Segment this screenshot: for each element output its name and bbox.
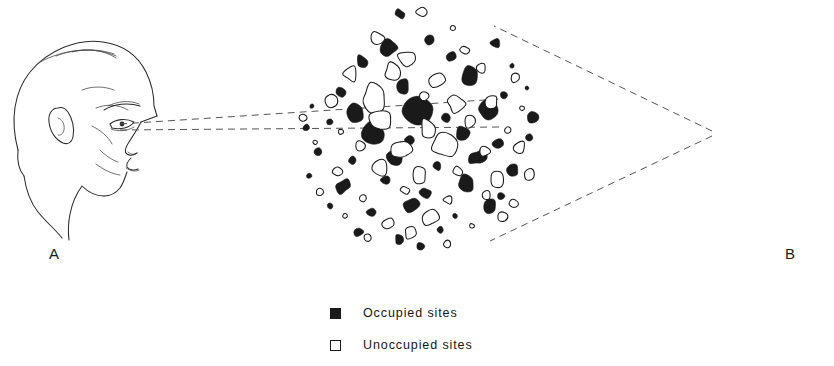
occupied-site (453, 213, 458, 218)
unoccupied-site (416, 7, 428, 16)
occupied-site (347, 103, 364, 123)
unoccupied-site (453, 166, 463, 176)
legend-item-unoccupied: Unoccupied sites (330, 332, 560, 358)
unoccupied-site (509, 199, 518, 207)
occupied-site (525, 86, 529, 90)
occupied-site (425, 35, 435, 45)
unoccupied-site (511, 73, 519, 82)
unoccupied-site (382, 218, 394, 229)
unoccupied-site (419, 92, 429, 101)
occupied-site (510, 63, 514, 68)
occupied-site (357, 55, 368, 68)
occupied-site (336, 87, 346, 97)
unoccupied-site (364, 234, 371, 241)
occupied-site (395, 9, 405, 19)
occupied-site (498, 193, 505, 200)
unoccupied-site (460, 46, 470, 54)
unoccupied-site (371, 31, 385, 44)
unoccupied-site (413, 167, 425, 184)
occupied-site (380, 176, 390, 184)
unoccupied-site (405, 227, 416, 239)
occupied-site (527, 112, 538, 124)
occupied-site (396, 234, 404, 244)
occupied-site (354, 228, 364, 236)
unoccupied-site (465, 115, 475, 128)
occupied-site (310, 104, 314, 108)
unoccupied-site (491, 171, 504, 187)
occupied-site (441, 113, 450, 122)
occupied-site (327, 119, 333, 125)
unoccupied-site (332, 167, 343, 176)
unoccupied-site (505, 127, 511, 133)
unoccupied-site (476, 63, 485, 73)
unoccupied-site (480, 146, 491, 156)
unoccupied-site (356, 141, 366, 151)
unoccupied-site (372, 159, 387, 176)
unoccupied-site (482, 190, 490, 199)
unoccupied-site (443, 196, 452, 204)
unoccupied-site (313, 140, 318, 144)
sightlines-observer-b (490, 26, 712, 241)
open-square-icon (330, 340, 341, 351)
unoccupied-site (397, 52, 415, 67)
head-profile-a (14, 41, 157, 240)
occupied-site (506, 164, 517, 176)
occupied-site (433, 162, 441, 171)
occupied-site (314, 148, 322, 156)
occupied-site (490, 39, 500, 48)
occupied-site (403, 198, 420, 213)
unoccupied-site (450, 26, 455, 31)
unoccupied-site (299, 114, 307, 121)
unoccupied-site (391, 141, 413, 157)
unoccupied-site (431, 132, 457, 156)
unoccupied-site (385, 62, 401, 80)
legend-label-unoccupied: Unoccupied sites (363, 338, 473, 352)
occupied-site (336, 179, 351, 195)
occupied-site (417, 243, 425, 250)
unoccupied-site (447, 95, 466, 113)
unoccupied-site (316, 188, 323, 195)
occupied-site (500, 92, 507, 99)
occupied-site (419, 188, 431, 198)
filled-square-icon (330, 308, 341, 319)
unoccupied-site (429, 73, 446, 88)
occupied-site (459, 174, 474, 192)
occupied-site (526, 134, 533, 141)
occupied-site (303, 124, 309, 131)
legend-label-occupied: Occupied sites (363, 306, 458, 320)
occupied-site (327, 203, 333, 209)
unoccupied-site (338, 129, 343, 134)
unoccupied-site (444, 240, 451, 248)
occupied-site (484, 199, 496, 214)
unoccupied-site (525, 168, 535, 180)
occupied-site (307, 173, 312, 178)
unoccupied-site (485, 96, 497, 109)
legend: Occupied sites Unoccupied sites (330, 300, 560, 364)
unoccupied-site (325, 94, 338, 107)
unoccupied-site (400, 186, 410, 194)
unoccupied-site (422, 119, 436, 138)
unoccupied-site (363, 82, 384, 113)
unoccupied-site (513, 141, 524, 153)
unoccupied-site (470, 224, 475, 228)
observer-label-b: B (785, 245, 796, 262)
occupied-site (348, 156, 356, 164)
unoccupied-site (422, 209, 439, 225)
site-cluster (299, 7, 539, 250)
unoccupied-site (498, 212, 508, 221)
occupied-site (446, 52, 456, 62)
occupied-site (397, 79, 409, 94)
occupied-site (366, 208, 376, 216)
unoccupied-site (343, 214, 348, 219)
occupied-site (437, 226, 443, 233)
occupied-site (462, 66, 478, 86)
figure-container: .ln { fill:none; stroke:#2b2b2b; stroke-… (0, 0, 834, 366)
occupied-site (492, 139, 504, 148)
observer-label-a: A (49, 245, 60, 262)
unoccupied-site (360, 195, 367, 202)
unoccupied-site (343, 66, 356, 82)
legend-item-occupied: Occupied sites (330, 300, 560, 326)
unoccupied-site (520, 106, 525, 110)
